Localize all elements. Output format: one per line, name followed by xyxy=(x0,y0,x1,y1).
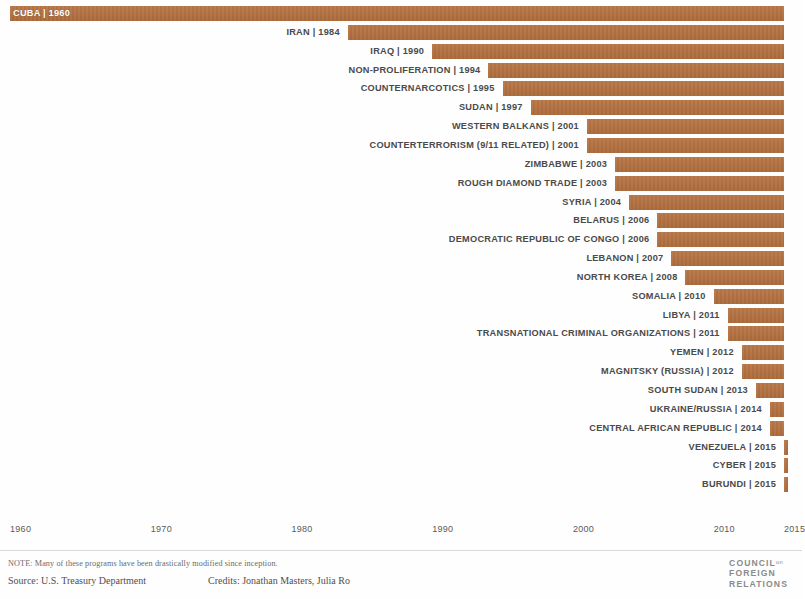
row-label-counterterrorism: COUNTERTERRORISM (9/11 RELATED) | 2001 xyxy=(370,136,583,155)
logo-on-text: on xyxy=(776,559,783,565)
row-label-lebanon: LEBANON | 2007 xyxy=(586,249,667,268)
row-label-central-african-republic: CENTRAL AFRICAN REPUBLIC | 2014 xyxy=(589,419,766,438)
bar-counterterrorism xyxy=(587,138,784,153)
chart-row: LIBYA | 2011 xyxy=(0,306,802,325)
bar-sudan xyxy=(531,100,784,115)
footer-credits: Credits: Jonathan Masters, Julia Ro xyxy=(208,575,350,586)
chart-row: WESTERN BALKANS | 2001 xyxy=(0,117,802,136)
bar-belarus xyxy=(657,213,784,228)
bar-cyber xyxy=(784,458,788,473)
row-label-yemen: YEMEN | 2012 xyxy=(670,343,738,362)
chart-row: SUDAN | 1997 xyxy=(0,98,802,117)
row-label-syria: SYRIA | 2004 xyxy=(562,193,625,212)
row-label-somalia: SOMALIA | 2010 xyxy=(632,287,710,306)
row-label-libya: LIBYA | 2011 xyxy=(663,306,724,325)
footer-source: Source: U.S. Treasury Department xyxy=(8,575,146,586)
row-label-ukraine-russia: UKRAINE/RUSSIA | 2014 xyxy=(650,400,766,419)
bar-somalia xyxy=(714,289,784,304)
chart-row: CYBER | 2015 xyxy=(0,456,802,475)
chart-row: CUBA | 1960 xyxy=(0,4,802,23)
row-label-transnational-criminal-organizations: TRANSNATIONAL CRIMINAL ORGANIZATIONS | 2… xyxy=(477,324,724,343)
figure-footer: NOTE: Many of these programs have been d… xyxy=(0,550,802,599)
row-label-counternarcotics: COUNTERNARCOTICS | 1995 xyxy=(361,79,499,98)
chart-row: ZIMBABWE | 2003 xyxy=(0,155,802,174)
bar-north-korea xyxy=(685,270,784,285)
bar-zimbabwe xyxy=(615,157,784,172)
bar-venezuela xyxy=(784,440,788,455)
chart-row: COUNTERNARCOTICS | 1995 xyxy=(0,79,802,98)
row-label-western-balkans: WESTERN BALKANS | 2001 xyxy=(452,117,583,136)
bar-democratic-republic-of-congo xyxy=(657,232,784,247)
bar-ukraine-russia xyxy=(770,402,784,417)
chart-row: BURUNDI | 2015 xyxy=(0,475,802,494)
row-label-cuba: CUBA | 1960 xyxy=(13,4,70,23)
bar-magnitsky-russia xyxy=(742,364,784,379)
row-label-iran: IRAN | 1984 xyxy=(286,23,343,42)
chart-row: SOUTH SUDAN | 2013 xyxy=(0,381,802,400)
row-label-cyber: CYBER | 2015 xyxy=(713,456,780,475)
chart-row: DEMOCRATIC REPUBLIC OF CONGO | 2006 xyxy=(0,230,802,249)
bar-non-proliferation xyxy=(488,63,784,78)
chart-plot-area: CUBA | 1960IRAN | 1984IRAQ | 1990NON-PRO… xyxy=(0,0,802,512)
row-label-zimbabwe: ZIMBABWE | 2003 xyxy=(525,155,611,174)
row-label-burundi: BURUNDI | 2015 xyxy=(702,475,780,494)
x-axis: 1960197019801990200020102015 xyxy=(0,512,802,546)
chart-row: UKRAINE/RUSSIA | 2014 xyxy=(0,400,802,419)
bar-syria xyxy=(629,195,784,210)
x-axis-tick-1980: 1980 xyxy=(291,524,312,534)
chart-row: NORTH KOREA | 2008 xyxy=(0,268,802,287)
logo-council-text: COUNCIL xyxy=(729,558,776,568)
bar-counternarcotics xyxy=(503,81,784,96)
chart-row: MAGNITSKY (RUSSIA) | 2012 xyxy=(0,362,802,381)
row-label-sudan: SUDAN | 1997 xyxy=(459,98,527,117)
chart-row: SYRIA | 2004 xyxy=(0,193,802,212)
x-axis-tick-2010: 2010 xyxy=(714,524,735,534)
chart-row: ROUGH DIAMOND TRADE | 2003 xyxy=(0,174,802,193)
chart-row: NON-PROLIFERATION | 1994 xyxy=(0,61,802,80)
bar-western-balkans xyxy=(587,119,784,134)
logo-line-1: COUNCILon xyxy=(729,557,788,568)
row-label-rough-diamond-trade: ROUGH DIAMOND TRADE | 2003 xyxy=(458,174,611,193)
x-axis-tick-1960: 1960 xyxy=(10,524,31,534)
chart-row: BELARUS | 2006 xyxy=(0,211,802,230)
bar-cuba xyxy=(10,6,784,21)
bar-libya xyxy=(728,308,784,323)
chart-row: IRAQ | 1990 xyxy=(0,42,802,61)
bar-south-sudan xyxy=(756,383,784,398)
row-label-non-proliferation: NON-PROLIFERATION | 1994 xyxy=(349,61,485,80)
chart-row: TRANSNATIONAL CRIMINAL ORGANIZATIONS | 2… xyxy=(0,324,802,343)
bar-iraq xyxy=(432,44,784,59)
row-label-magnitsky-russia: MAGNITSKY (RUSSIA) | 2012 xyxy=(601,362,738,381)
x-axis-tick-1990: 1990 xyxy=(432,524,453,534)
bar-central-african-republic xyxy=(770,421,784,436)
bar-burundi xyxy=(784,477,788,492)
bar-transnational-criminal-organizations xyxy=(728,326,784,341)
x-axis-tick-2000: 2000 xyxy=(573,524,594,534)
row-label-belarus: BELARUS | 2006 xyxy=(573,211,653,230)
row-label-democratic-republic-of-congo: DEMOCRATIC REPUBLIC OF CONGO | 2006 xyxy=(449,230,654,249)
chart-row: VENEZUELA | 2015 xyxy=(0,438,802,457)
row-label-south-sudan: SOUTH SUDAN | 2013 xyxy=(648,381,752,400)
chart-row: YEMEN | 2012 xyxy=(0,343,802,362)
footer-note: NOTE: Many of these programs have been d… xyxy=(8,559,278,568)
cfr-logo: COUNCILon FOREIGN RELATIONS xyxy=(729,557,788,589)
x-axis-tick-1970: 1970 xyxy=(151,524,172,534)
bar-yemen xyxy=(742,345,784,360)
logo-line-3: RELATIONS xyxy=(729,579,788,590)
bar-rough-diamond-trade xyxy=(615,176,784,191)
chart-row: CENTRAL AFRICAN REPUBLIC | 2014 xyxy=(0,419,802,438)
chart-row: LEBANON | 2007 xyxy=(0,249,802,268)
row-label-north-korea: NORTH KOREA | 2008 xyxy=(577,268,682,287)
chart-row: IRAN | 1984 xyxy=(0,23,802,42)
x-axis-tick-2015: 2015 xyxy=(784,524,805,534)
chart-row: SOMALIA | 2010 xyxy=(0,287,802,306)
bar-iran xyxy=(348,25,784,40)
logo-line-2: FOREIGN xyxy=(729,568,788,579)
row-label-iraq: IRAQ | 1990 xyxy=(370,42,428,61)
row-label-venezuela: VENEZUELA | 2015 xyxy=(689,438,780,457)
bar-lebanon xyxy=(671,251,784,266)
chart-row: COUNTERTERRORISM (9/11 RELATED) | 2001 xyxy=(0,136,802,155)
